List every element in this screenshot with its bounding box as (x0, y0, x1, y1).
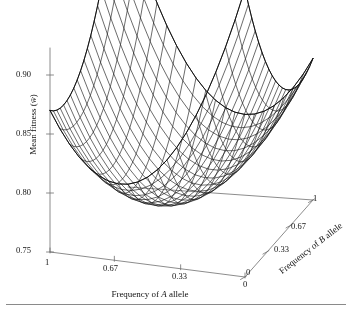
z-tick-label-075: 0.75 (16, 246, 31, 255)
z-axis-title: Mean fitness (w̄) (29, 70, 38, 180)
z-axis-title-symbol: w̄ (28, 97, 38, 103)
y-tick-label-0: 0 (246, 268, 250, 277)
z-tick-label-080: 0.80 (16, 188, 31, 197)
surface-plot-canvas (0, 0, 352, 316)
x-axis-title-suffix: allele (167, 289, 189, 299)
x-tick-label-0: 0 (243, 280, 247, 289)
z-tick-label-090: 0.90 (16, 70, 31, 79)
x-tick-label-1: 1 (45, 258, 49, 267)
z-tick-label-085: 0.85 (16, 129, 31, 138)
y-tick-label-067: 0.67 (291, 222, 306, 231)
figure-adaptive-landscape: Mean fitness (w̄) 0.90 0.85 0.80 0.75 1 … (0, 0, 352, 316)
y-tick-label-033: 0.33 (274, 245, 289, 254)
x-tick-label-067: 0.67 (103, 264, 118, 273)
x-axis-title: Frequency of A allele (60, 290, 240, 299)
x-tick-label-033: 0.33 (172, 272, 187, 281)
y-tick-label-1: 1 (313, 194, 317, 203)
z-axis-title-suffix: ) (28, 94, 38, 97)
footer-rule (6, 304, 346, 305)
x-axis-title-prefix: Frequency of (111, 289, 161, 299)
